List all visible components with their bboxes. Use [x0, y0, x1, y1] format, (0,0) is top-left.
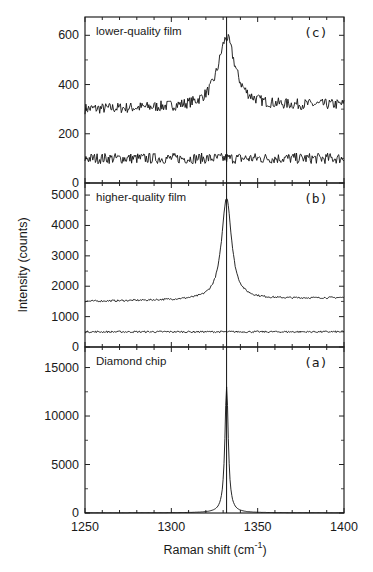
- spectrum-line: [85, 153, 344, 164]
- x-axis-title: Raman shift (cm-1): [163, 540, 266, 557]
- y-tick-label: 15000: [44, 361, 79, 375]
- x-tick-label: 1400: [330, 520, 358, 534]
- panel-frame: [85, 347, 344, 513]
- y-tick-label: 3000: [51, 249, 79, 263]
- panel-title: lower-quality film: [96, 25, 182, 37]
- panel-c: 0200400600lower-quality film(c): [58, 17, 344, 190]
- spectrum-line: [85, 34, 344, 114]
- panel-a: 050001000015000Diamond chip(a): [44, 347, 344, 520]
- spectrum-line: [85, 198, 344, 302]
- y-tick-label: 1000: [51, 310, 79, 324]
- y-tick-label: 200: [58, 127, 79, 141]
- y-tick-label: 10000: [44, 409, 79, 423]
- x-tick-label: 1250: [71, 520, 99, 534]
- panel-tag: (c): [304, 25, 327, 40]
- x-tick-label: 1350: [244, 520, 272, 534]
- y-tick-label: 0: [72, 340, 79, 354]
- spectrum-line: [85, 387, 344, 513]
- y-tick-label: 4000: [51, 218, 79, 232]
- panel-tag: (a): [304, 355, 327, 370]
- y-tick-label: 400: [58, 78, 79, 92]
- y-tick-label: 5000: [51, 188, 79, 202]
- plot-panels: 0200400600lower-quality film(c)010002000…: [44, 17, 358, 534]
- y-tick-label: 5000: [51, 458, 79, 472]
- panel-frame: [85, 183, 344, 347]
- y-tick-label: 2000: [51, 279, 79, 293]
- panel-title: Diamond chip: [96, 355, 166, 367]
- raman-spectra-figure: 0200400600lower-quality film(c)010002000…: [0, 0, 373, 572]
- panel-title: higher-quality film: [96, 191, 186, 203]
- panel-b: 010002000300040005000higher-quality film…: [51, 183, 344, 354]
- y-axis-title: Intensity (counts): [16, 217, 30, 312]
- panel-tag: (b): [304, 191, 327, 206]
- y-tick-label: 600: [58, 28, 79, 42]
- spectrum-line: [85, 331, 344, 333]
- y-tick-label: 0: [72, 506, 79, 520]
- x-tick-label: 1300: [157, 520, 185, 534]
